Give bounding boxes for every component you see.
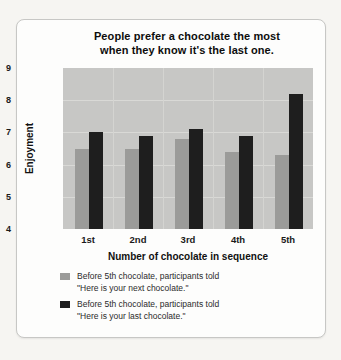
x-tick-label-3rd: 3rd [163,234,213,245]
v-gridline-4 [263,68,264,229]
chart-title-line2: when they know it's the last one. [57,44,317,58]
y-tick-label-7: 7 [0,127,11,137]
y-tick-label-5: 5 [0,192,11,202]
bar-last-3rd [189,129,203,229]
legend-text-next: Before 5th chocolate, participants told … [77,271,219,294]
legend-last-line1: Before 5th chocolate, participants told [77,299,219,311]
bar-last-2nd [139,136,153,229]
legend-next-line2: "Here is your next chocolate." [77,283,219,295]
y-axis-label-text: Enjoyment [25,123,36,174]
legend-text-last: Before 5th chocolate, participants told … [77,299,219,322]
chart-card: People prefer a chocolate the most when … [16,19,326,338]
x-axis-ticks: 1st2nd3rd4th5th [63,234,313,246]
h-gridline-8 [63,100,313,101]
x-tick-label-2nd: 2nd [113,234,163,245]
y-tick-label-8: 8 [0,95,11,105]
v-gridline-3 [213,68,214,229]
y-tick-label-6: 6 [0,160,11,170]
legend-item-last: Before 5th chocolate, participants told … [60,299,219,322]
legend-next-line1: Before 5th chocolate, participants told [77,271,219,283]
x-axis-label: Number of chocolate in sequence [63,251,313,262]
legend-swatch-last [60,301,70,308]
y-tick-label-9: 9 [0,63,11,73]
v-gridline-2 [163,68,164,229]
plot-area [63,68,313,229]
y-axis-label: Enjoyment [22,68,38,229]
chart-title: People prefer a chocolate the most when … [57,30,317,57]
y-tick-label-4: 4 [0,224,11,234]
bar-next-2nd [125,149,139,230]
x-tick-label-1st: 1st [63,234,113,245]
chart-legend: Before 5th chocolate, participants told … [60,271,219,327]
legend-swatch-next [60,273,70,280]
bar-last-1st [89,132,103,229]
x-tick-label-5th: 5th [263,234,313,245]
bar-last-5th [289,94,303,229]
bar-next-3rd [175,139,189,229]
bar-next-1st [75,149,89,230]
bar-last-4th [239,136,253,229]
y-axis-ticks: 456789 [0,68,11,229]
page-background: { "card": { "background": "#fdfdfc", "bo… [0,0,341,360]
legend-last-line2: "Here is your last chocolate." [77,311,219,323]
chart-title-line1: People prefer a chocolate the most [57,30,317,44]
bar-next-4th [225,152,239,229]
v-gridline-1 [113,68,114,229]
legend-item-next: Before 5th chocolate, participants told … [60,271,219,294]
bar-next-5th [275,155,289,229]
x-tick-label-4th: 4th [213,234,263,245]
